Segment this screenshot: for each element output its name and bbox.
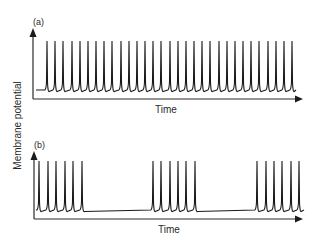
y-axis-arrow-icon [31, 151, 38, 160]
trace-a [36, 41, 296, 92]
panel-b [31, 151, 305, 223]
x-axis-label-a: Time [155, 104, 177, 115]
x-axis-arrow-icon [295, 96, 303, 103]
trace-b [36, 161, 304, 212]
y-axis-label: Membrane potential [12, 81, 23, 171]
x-axis-arrow-icon [295, 216, 303, 223]
panel-label-a: (a) [33, 17, 44, 27]
figure [0, 0, 324, 246]
panel-label-b: (b) [34, 140, 45, 150]
panel-a [30, 28, 304, 103]
y-axis-arrow-icon [30, 28, 37, 37]
x-axis-label-b: Time [158, 224, 180, 235]
